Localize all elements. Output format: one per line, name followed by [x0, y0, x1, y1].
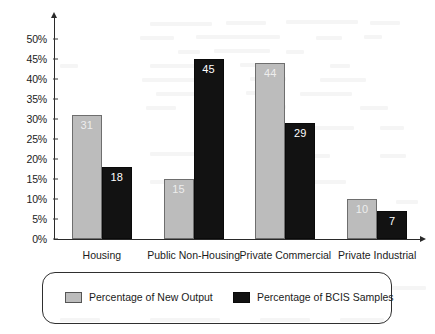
y-axis-arrow-icon	[51, 12, 57, 18]
y-axis-tick-mark	[53, 59, 58, 60]
legend-swatch-black	[233, 292, 250, 303]
bar-value-label: 44	[256, 68, 284, 79]
bar-private-industrial-series-1[interactable]: 7	[377, 211, 407, 239]
y-axis-tick-label: 45%	[11, 54, 47, 65]
category-label-housing: Housing	[83, 250, 122, 261]
bar-private-commercial-series-1[interactable]: 29	[285, 123, 315, 239]
bar-public-non-housing-series-0[interactable]: 15	[164, 179, 194, 239]
bar-value-label: 7	[378, 216, 406, 227]
bar-value-label: 15	[165, 184, 193, 195]
legend-swatch-grey	[65, 292, 82, 303]
legend-label: Percentage of New Output	[89, 292, 213, 303]
y-axis-tick-mark	[53, 119, 58, 120]
bar-housing-series-0[interactable]: 31	[72, 115, 102, 239]
y-axis-tick-label: 10%	[11, 194, 47, 205]
y-axis-tick-label: 15%	[11, 174, 47, 185]
bar-value-label: 31	[73, 120, 101, 131]
y-axis-tick-label: 5%	[11, 214, 47, 225]
y-axis-tick-label: 40%	[11, 74, 47, 85]
y-axis-tick-label: 35%	[11, 94, 47, 105]
bar-private-commercial-series-0[interactable]: 44	[255, 63, 285, 239]
plot-area: 0%5%10%15%20%25%30%35%40%45%50% 31181545…	[0, 0, 435, 265]
chart-legend: Percentage of New OutputPercentage of BC…	[42, 272, 392, 324]
y-axis-tick-mark	[53, 159, 58, 160]
y-axis-tick-label: 0%	[11, 234, 47, 245]
bar-public-non-housing-series-1[interactable]: 45	[194, 59, 224, 239]
x-axis-line	[54, 239, 421, 240]
legend-item-bcis-samples[interactable]: Percentage of BCIS Samples	[233, 292, 394, 303]
category-label-private-commercial: Private Commercial	[240, 250, 332, 261]
category-label-public-non-housing: Public Non-Housing	[147, 250, 240, 261]
y-axis-tick-mark	[53, 199, 58, 200]
bar-value-label: 10	[348, 204, 376, 215]
category-label-private-industrial: Private Industrial	[338, 250, 416, 261]
bar-housing-series-1[interactable]: 18	[102, 167, 132, 239]
y-axis-tick-mark	[53, 239, 58, 240]
x-axis-arrow-icon	[420, 236, 426, 242]
y-axis-line	[54, 17, 55, 240]
y-axis-tick-mark	[53, 39, 58, 40]
y-axis-tick-mark	[53, 79, 58, 80]
y-axis-tick-label: 30%	[11, 114, 47, 125]
bar-value-label: 18	[103, 172, 131, 183]
legend-item-new-output[interactable]: Percentage of New Output	[65, 292, 213, 303]
bar-private-industrial-series-0[interactable]: 10	[347, 199, 377, 239]
y-axis-tick-mark	[53, 139, 58, 140]
y-axis-tick-label: 25%	[11, 134, 47, 145]
y-axis-tick-mark	[53, 179, 58, 180]
legend-label: Percentage of BCIS Samples	[257, 292, 394, 303]
scan-artifact	[392, 286, 426, 290]
y-axis-tick-mark	[53, 219, 58, 220]
y-axis-tick-label: 50%	[11, 34, 47, 45]
bar-value-label: 45	[195, 64, 223, 75]
y-axis-tick-mark	[53, 99, 58, 100]
y-axis-tick-label: 20%	[11, 154, 47, 165]
chart-canvas: 0%5%10%15%20%25%30%35%40%45%50% 31181545…	[0, 0, 435, 334]
bar-value-label: 29	[286, 128, 314, 139]
